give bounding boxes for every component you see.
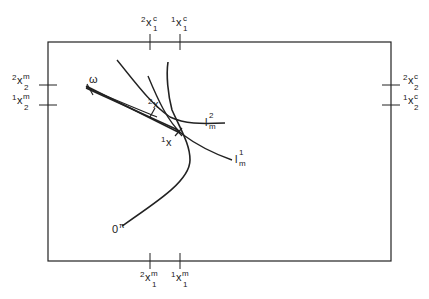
- label-top-2x1c: 2 x c 1: [141, 14, 158, 33]
- svg-text:x: x: [146, 16, 152, 28]
- edgeworth-box-frame: [48, 42, 391, 261]
- svg-text:0: 0: [112, 223, 118, 235]
- svg-text:2: 2: [414, 103, 419, 112]
- label-right-2x2c: 2 x c 2: [403, 72, 419, 92]
- svg-text:m: m: [209, 122, 216, 131]
- label-left-2x2m: 2 x m 2: [12, 72, 30, 92]
- budget-line-3: [86, 87, 157, 117]
- svg-text:c: c: [183, 14, 187, 23]
- svg-text:2: 2: [24, 103, 29, 112]
- svg-text:l: l: [235, 153, 237, 165]
- svg-text:2: 2: [414, 83, 419, 92]
- label-origin: 0 π: [112, 221, 125, 235]
- label-bottom-1x1m: 1 x m 1: [171, 269, 189, 289]
- label-top-1x1c: 1 x c 1: [171, 14, 188, 33]
- svg-text:1: 1: [239, 148, 244, 157]
- label-curve-lm2: l 2 m: [205, 111, 216, 131]
- label-left-1x2m: 1 x m 2: [12, 92, 30, 112]
- label-point-2x: 2 x: [148, 97, 159, 110]
- svg-text:x: x: [153, 98, 159, 110]
- svg-text:m: m: [23, 92, 30, 101]
- label-bottom-2x1m: 2 x m 1: [140, 269, 158, 289]
- budget-line-2: [86, 88, 178, 130]
- label-point-1x: 1 x: [161, 135, 172, 148]
- svg-text:c: c: [414, 92, 418, 101]
- svg-text:1: 1: [183, 280, 188, 289]
- svg-text:x: x: [176, 16, 182, 28]
- svg-text:c: c: [414, 72, 418, 81]
- svg-text:x: x: [166, 136, 172, 148]
- offer-curve: [122, 62, 190, 226]
- svg-text:c: c: [153, 14, 157, 23]
- svg-text:m: m: [239, 159, 246, 168]
- svg-text:2: 2: [24, 83, 29, 92]
- edgeworth-box-diagram: 2 x c 1 1 x c 1 2 x m 1 1 x m 1 2 x m 2 …: [0, 0, 429, 299]
- label-curve-lm1: l 1 m: [235, 148, 246, 168]
- curve-lm1: [148, 76, 232, 160]
- label-omega: ω: [89, 73, 98, 85]
- svg-text:l: l: [205, 116, 207, 128]
- svg-text:m: m: [23, 72, 30, 81]
- svg-text:m: m: [151, 269, 158, 278]
- svg-text:m: m: [182, 269, 189, 278]
- svg-text:1: 1: [183, 24, 188, 33]
- svg-text:1: 1: [153, 24, 158, 33]
- svg-text:1: 1: [152, 280, 157, 289]
- svg-text:π: π: [119, 221, 125, 230]
- label-right-1x2c: 1 x c 2: [403, 92, 419, 112]
- svg-text:2: 2: [209, 111, 214, 120]
